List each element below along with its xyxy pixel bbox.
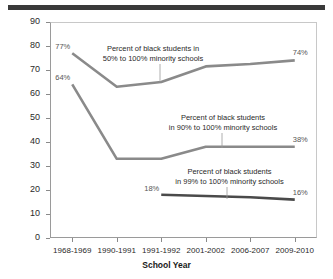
- y-tick-label: 50: [30, 112, 40, 122]
- y-tick-50: 50: [0, 118, 50, 119]
- y-tick-60: 60: [0, 94, 50, 95]
- y-tick-label: 20: [30, 184, 40, 194]
- x-tick-label-1968-1969: 1968-1969: [53, 246, 91, 255]
- point-label-74pct: 74%: [293, 48, 308, 57]
- y-tick-70: 70: [0, 70, 50, 71]
- top-rule-divider: [8, 5, 325, 10]
- y-tick-label: 30: [30, 160, 40, 170]
- y-tick-80: 80: [0, 46, 50, 47]
- point-label-38pct: 38%: [293, 135, 308, 144]
- y-tick-label: 40: [30, 136, 40, 146]
- y-tick-mark: [46, 238, 50, 239]
- y-tick-mark: [46, 22, 50, 23]
- y-tick-10: 10: [0, 214, 50, 215]
- y-tick-label: 60: [30, 88, 40, 98]
- point-label-77pct: 77%: [55, 42, 70, 51]
- x-tick-label-2001-2002: 2001-2002: [187, 246, 225, 255]
- chart-figure: Percent of Black Students 01020304050607…: [0, 0, 333, 279]
- x-tick-mark: [250, 238, 251, 242]
- y-tick-90: 90: [0, 22, 50, 23]
- y-tick-20: 20: [0, 190, 50, 191]
- y-tick-mark: [46, 118, 50, 119]
- annotation-90-100: Percent of black students in 90% to 100%…: [148, 113, 298, 132]
- y-tick-30: 30: [0, 166, 50, 167]
- x-tick-label-1990-1991: 1990-1991: [98, 246, 136, 255]
- x-tick-label-2009-2010: 2009-2010: [276, 246, 314, 255]
- annotation-50-100: Percent of black students in 50% to 100%…: [88, 44, 218, 63]
- y-tick-mark: [46, 166, 50, 167]
- x-tick-mark: [72, 238, 73, 242]
- annotation-99-100: Percent of black students in 99% to 100%…: [152, 167, 307, 186]
- y-tick-0: 0: [0, 238, 50, 239]
- y-tick-mark: [46, 142, 50, 143]
- y-tick-mark: [46, 94, 50, 95]
- x-tick-mark: [206, 238, 207, 242]
- x-tick-mark: [295, 238, 296, 242]
- y-tick-mark: [46, 190, 50, 191]
- y-tick-label: 70: [30, 64, 40, 74]
- y-tick-mark: [46, 70, 50, 71]
- y-tick-mark: [46, 46, 50, 47]
- y-tick-label: 0: [35, 232, 40, 242]
- y-tick-40: 40: [0, 142, 50, 143]
- y-tick-label: 10: [30, 208, 40, 218]
- y-tick-mark: [46, 214, 50, 215]
- point-label-16pct: 16%: [293, 188, 308, 197]
- y-tick-label: 80: [30, 40, 40, 50]
- y-tick-label: 90: [30, 16, 40, 26]
- x-tick-label-1991-1992: 1991-1992: [142, 246, 180, 255]
- point-label-18pct: 18%: [144, 184, 159, 193]
- x-tick-label-2006-2007: 2006-2007: [231, 246, 269, 255]
- x-tick-mark: [161, 238, 162, 242]
- x-axis-title: School Year: [0, 260, 333, 270]
- x-tick-mark: [117, 238, 118, 242]
- point-label-64pct: 64%: [55, 73, 70, 82]
